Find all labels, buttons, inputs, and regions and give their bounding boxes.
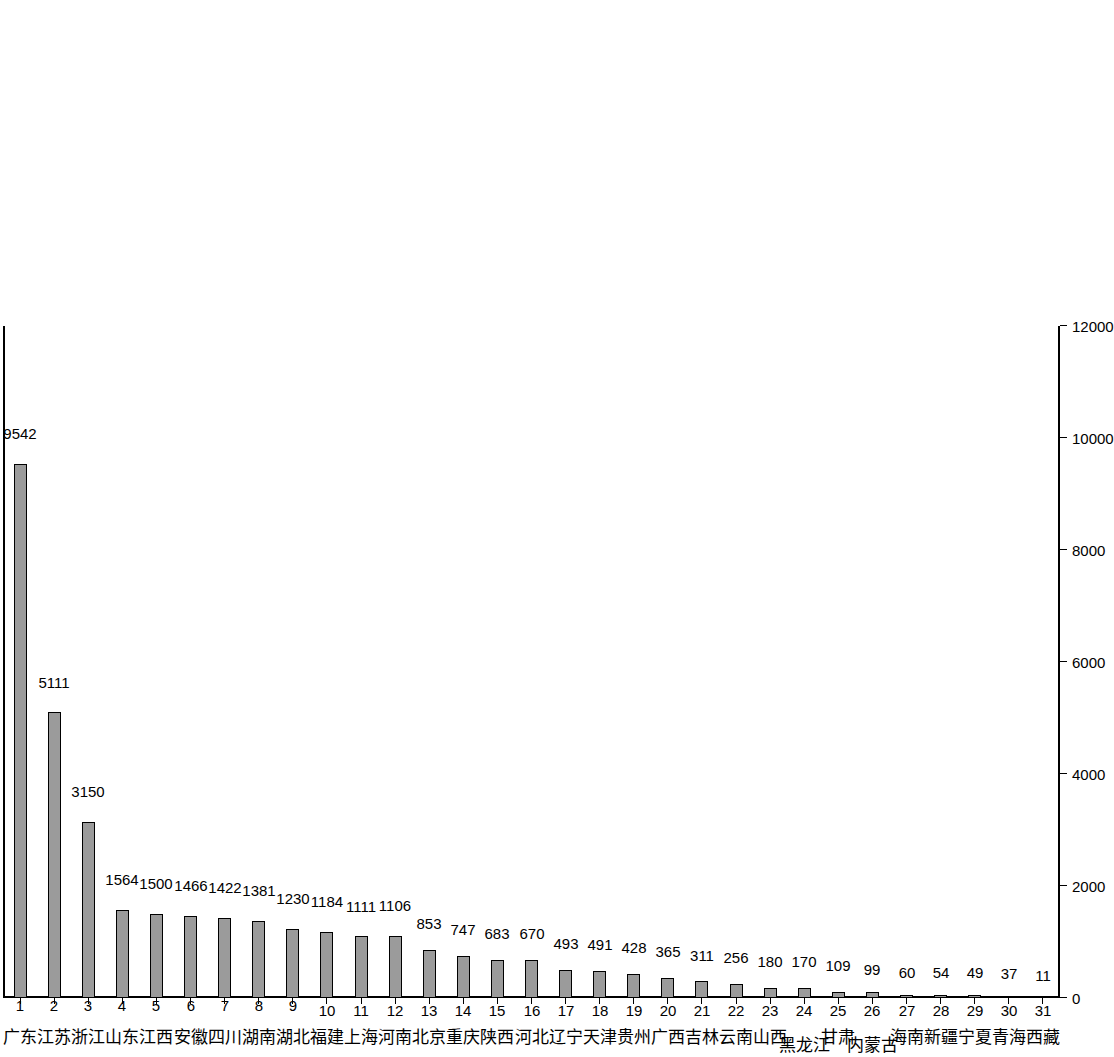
bar-14: 747 — [457, 326, 470, 998]
bar-8: 1381 — [252, 326, 265, 998]
bar-rect — [252, 921, 265, 998]
category-rank-label: 7 — [220, 999, 228, 1014]
bar-29: 49 — [968, 326, 981, 998]
category-14: 14重庆 — [453, 998, 473, 1057]
bar-value-label: 491 — [587, 937, 612, 952]
bar-17: 493 — [559, 326, 572, 998]
bar-9: 1230 — [286, 326, 299, 998]
category-name-label: 吉林 — [685, 1029, 719, 1046]
value-tick — [1060, 661, 1067, 662]
category-9: 9湖北 — [283, 998, 303, 1057]
bar-24: 170 — [798, 326, 811, 998]
category-3: 3浙江 — [78, 998, 98, 1057]
bar-5: 1500 — [150, 326, 163, 998]
bar-rect — [730, 984, 743, 998]
category-20: 20广西 — [658, 998, 678, 1057]
bar-16: 670 — [525, 326, 538, 998]
category-28: 28新疆 — [931, 998, 951, 1057]
bar-value-label: 5111 — [39, 675, 70, 690]
bar-19: 428 — [627, 326, 640, 998]
bar-value-label: 493 — [553, 936, 578, 951]
category-rank-label: 20 — [660, 1003, 677, 1018]
category-name-label: 江苏 — [37, 1029, 71, 1046]
bar-rect — [559, 970, 572, 998]
category-23: 23山西 — [760, 998, 780, 1057]
bar-value-label: 9542 — [3, 425, 36, 440]
category-name-label: 福建 — [310, 1029, 344, 1046]
category-1: 1广东 — [10, 998, 30, 1057]
category-name-label: 浙江 — [71, 1029, 105, 1046]
category-name-label: 云南 — [719, 1029, 753, 1046]
bar-value-label: 54 — [932, 965, 949, 980]
value-tick — [1060, 997, 1067, 998]
category-10: 10福建 — [317, 998, 337, 1057]
category-name-label: 山东 — [105, 1029, 139, 1046]
category-rank-label: 28 — [932, 1003, 949, 1018]
bar-21: 311 — [695, 326, 708, 998]
bar-value-label: 60 — [898, 965, 915, 980]
bar-value-label: 747 — [451, 922, 476, 937]
category-8: 8湖南 — [249, 998, 269, 1057]
bar-rect — [82, 822, 95, 998]
bar-rect — [14, 464, 27, 998]
bar-rect — [661, 978, 674, 998]
category-name-label: 新疆 — [924, 1029, 958, 1046]
bar-rect — [627, 974, 640, 998]
value-axis: 020004000600080001000012000 — [1060, 326, 1110, 998]
category-rank-label: 13 — [421, 1003, 438, 1018]
category-12: 12河南 — [385, 998, 405, 1057]
category-21: 21吉林 — [692, 998, 712, 1057]
category-rank-label: 8 — [255, 999, 263, 1014]
bar-18: 491 — [593, 326, 606, 998]
category-rank-label: 10 — [319, 1003, 336, 1018]
category-rank-label: 1 — [16, 999, 24, 1014]
category-13: 13北京 — [419, 998, 439, 1057]
category-name-label: 天津 — [583, 1029, 617, 1046]
category-2: 2江苏 — [44, 998, 64, 1057]
bar-30: 37 — [1002, 326, 1015, 998]
category-22: 22云南 — [726, 998, 746, 1057]
bar-rect — [48, 712, 61, 998]
bar-2: 5111 — [48, 326, 61, 998]
bar-value-label: 49 — [966, 965, 983, 980]
bar-value-label: 311 — [690, 947, 714, 962]
bar-11: 1111 — [355, 326, 368, 998]
bar-27: 60 — [900, 326, 913, 998]
category-axis: 1广东2江苏3浙江4山东5江西6安徽7四川8湖南9湖北10福建11上海12河南1… — [3, 998, 1060, 1057]
bar-value-label: 11 — [1035, 968, 1051, 983]
bar-23: 180 — [764, 326, 777, 998]
category-name-label: 宁夏 — [958, 1029, 992, 1046]
bar-3: 3150 — [82, 326, 95, 998]
category-rank-label: 25 — [830, 1003, 847, 1018]
bar-rect — [116, 910, 129, 998]
bar-31: 11 — [1036, 326, 1049, 998]
bar-value-label: 1564 — [106, 872, 139, 887]
category-27: 27海南 — [897, 998, 917, 1057]
category-15: 15陕西 — [487, 998, 507, 1057]
category-rank-label: 22 — [728, 1003, 745, 1018]
category-rank-label: 4 — [118, 999, 126, 1014]
bar-rect — [798, 988, 811, 998]
value-tick — [1060, 773, 1067, 774]
category-rank-label: 29 — [966, 1003, 983, 1018]
bar-28: 54 — [934, 326, 947, 998]
bar-value-label: 1500 — [140, 876, 173, 891]
category-rank-label: 18 — [591, 1003, 608, 1018]
value-tick-label: 0 — [1072, 990, 1080, 1007]
category-rank-label: 17 — [557, 1003, 574, 1018]
category-rank-label: 14 — [455, 1003, 472, 1018]
bar-1: 9542 — [14, 326, 27, 998]
category-rank-label: 23 — [762, 1003, 779, 1018]
bar-rect — [389, 936, 402, 998]
category-name-label: 河南 — [378, 1029, 412, 1046]
category-rank-label: 2 — [50, 999, 58, 1014]
category-16: 16河北 — [522, 998, 542, 1057]
category-rank-label: 15 — [489, 1003, 506, 1018]
bar-20: 365 — [661, 326, 674, 998]
category-name-label: 贵州 — [617, 1029, 651, 1046]
category-name-label: 安徽 — [174, 1029, 208, 1046]
bar-22: 256 — [730, 326, 743, 998]
value-tick-label: 4000 — [1072, 766, 1105, 783]
category-30: 30青海 — [999, 998, 1019, 1057]
category-rank-label: 26 — [864, 1003, 881, 1018]
